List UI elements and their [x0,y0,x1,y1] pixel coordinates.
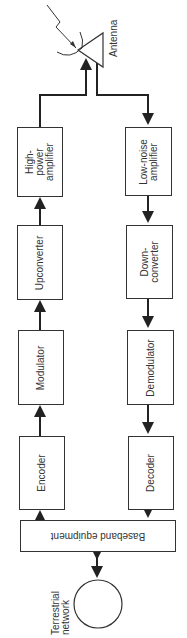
encoder-label: Encoder [37,454,47,491]
decoder-label: Decoder [146,454,156,492]
demodulator-block: Demodulator [127,330,174,405]
encoder-block: Encoder [19,436,65,510]
modulator-label: Modulator [36,345,46,389]
lna-label: Low-noise amplifier [139,139,159,185]
hpa-label: High- power amplifier [25,143,55,181]
lna-block: Low-noise amplifier [125,127,172,196]
terrestrial-network-circle [74,580,122,628]
baseband-equipment-block: Baseband equipment [20,520,176,552]
upconverter-label: Upconverter [35,235,45,289]
downconverter-label: Down- converter [140,241,160,283]
terrestrial-network-label: Terrestrial network [51,591,71,635]
demodulator-label: Demodulator [146,339,156,396]
antenna-dish-arc [57,32,83,55]
baseband-label: Baseband equipment [51,531,146,542]
downconverter-block: Down- converter [126,225,173,299]
upconverter-block: Upconverter [17,225,63,300]
hpa-block: High- power amplifier [17,127,63,197]
signal-ray-icon [47,5,76,48]
decoder-block: Decoder [128,436,174,510]
arrow-antenna-to-lna [97,62,148,123]
arrow-hpa-to-antenna [40,60,86,127]
modulator-block: Modulator [18,330,64,405]
antenna-label: Antenna [109,20,119,57]
